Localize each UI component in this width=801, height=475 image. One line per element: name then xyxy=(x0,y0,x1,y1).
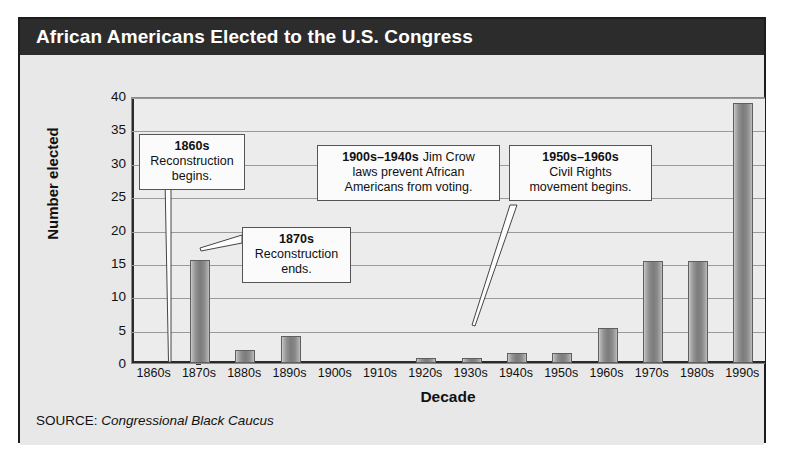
screenshot-root: African Americans Elected to the U.S. Co… xyxy=(0,0,801,475)
annotation-1860s-line2: begins. xyxy=(146,169,238,184)
y-axis-ticks: 0510152025303540 xyxy=(90,97,126,364)
source-line: SOURCE: Congressional Black Caucus xyxy=(36,413,274,428)
y-axis-title: Number elected xyxy=(44,89,61,279)
x-tick-label-1880s: 1880s xyxy=(222,366,267,380)
chart-canvas: Number elected 0510152025303540 1860s187… xyxy=(20,55,764,445)
annotation-1870s-line2: ends. xyxy=(249,262,344,277)
x-tick-label-1960s: 1960s xyxy=(584,366,629,380)
x-tick-label-1870s: 1870s xyxy=(176,366,221,380)
annotation-1870s-bold: 1870s xyxy=(279,232,314,246)
x-tick-label-1940s: 1940s xyxy=(493,366,538,380)
gridline-20 xyxy=(132,232,765,233)
y-tick-label-40: 40 xyxy=(96,89,126,104)
bar-1890s xyxy=(281,336,301,363)
x-tick-label-1950s: 1950s xyxy=(539,366,584,380)
bar-1990s xyxy=(733,103,753,363)
bar-1920s xyxy=(416,358,436,363)
y-tick-label-20: 20 xyxy=(96,223,126,238)
annotation-1860s-line1: Reconstruction xyxy=(146,154,238,169)
annotation-1900s-1940s-inline: Jim Crow xyxy=(423,150,475,164)
x-tick-label-1990s: 1990s xyxy=(720,366,765,380)
y-tick-label-30: 30 xyxy=(96,156,126,171)
y-tick-label-5: 5 xyxy=(96,323,126,338)
annotation-1860s: 1860s Reconstruction begins. xyxy=(139,134,245,190)
annotation-1870s-line1: Reconstruction xyxy=(249,247,344,262)
gridline-5 xyxy=(132,332,765,333)
bar-1970s xyxy=(643,261,663,363)
y-axis-line xyxy=(132,98,134,363)
annotation-1900s-1940s-line1: laws prevent African xyxy=(324,165,493,180)
y-tick-mark-0 xyxy=(196,364,201,365)
annotation-1950s-1960s: 1950s–1960s Civil Rights movement begins… xyxy=(509,145,652,201)
bar-1870s xyxy=(190,260,210,363)
source-prefix: SOURCE: xyxy=(36,413,98,428)
gridline-10 xyxy=(132,298,765,299)
bar-1880s xyxy=(235,350,255,363)
annotation-1950s-1960s-bold: 1950s–1960s xyxy=(542,150,618,164)
source-bar: SOURCE: Congressional Black Caucus xyxy=(20,405,764,441)
bar-1950s xyxy=(552,353,572,363)
x-tick-label-1980s: 1980s xyxy=(674,366,719,380)
chart-figure: African Americans Elected to the U.S. Co… xyxy=(18,17,766,443)
x-tick-label-1890s: 1890s xyxy=(267,366,312,380)
x-tick-label-1860s: 1860s xyxy=(131,366,176,380)
bar-1940s xyxy=(507,353,527,363)
bar-1960s xyxy=(598,328,618,363)
gridline-35 xyxy=(132,131,765,132)
gridline-15 xyxy=(132,265,765,266)
source-name: Congressional Black Caucus xyxy=(101,413,274,428)
gridline-40 xyxy=(132,98,765,99)
x-tick-label-1930s: 1930s xyxy=(448,366,493,380)
y-tick-label-0: 0 xyxy=(96,356,126,371)
bar-1980s xyxy=(688,261,708,363)
y-tick-label-10: 10 xyxy=(96,289,126,304)
x-tick-label-1910s: 1910s xyxy=(357,366,402,380)
x-tick-label-1970s: 1970s xyxy=(629,366,674,380)
annotation-1870s: 1870s Reconstruction ends. xyxy=(242,227,351,283)
y-tick-label-25: 25 xyxy=(96,189,126,204)
annotation-1950s-1960s-line1: Civil Rights xyxy=(516,165,645,180)
annotation-1860s-bold: 1860s xyxy=(175,139,210,153)
x-tick-label-1900s: 1900s xyxy=(312,366,357,380)
y-tick-label-35: 35 xyxy=(96,122,126,137)
chart-title: African Americans Elected to the U.S. Co… xyxy=(36,26,473,48)
annotation-1900s-1940s-line2: Americans from voting. xyxy=(324,180,493,195)
x-axis-line xyxy=(132,361,765,363)
annotation-1900s-1940s: 1900s–1940sJim Crow laws prevent African… xyxy=(317,145,500,201)
bar-1930s xyxy=(462,358,482,363)
annotation-1950s-1960s-line2: movement begins. xyxy=(516,180,645,195)
x-axis-ticks: 1860s1870s1880s1890s1900s1910s1920s1930s… xyxy=(131,366,765,388)
chart-title-bar: African Americans Elected to the U.S. Co… xyxy=(20,19,764,55)
x-tick-label-1920s: 1920s xyxy=(403,366,448,380)
annotation-1900s-1940s-bold: 1900s–1940s xyxy=(342,150,418,164)
x-axis-title: Decade xyxy=(131,388,765,406)
y-tick-label-15: 15 xyxy=(96,256,126,271)
